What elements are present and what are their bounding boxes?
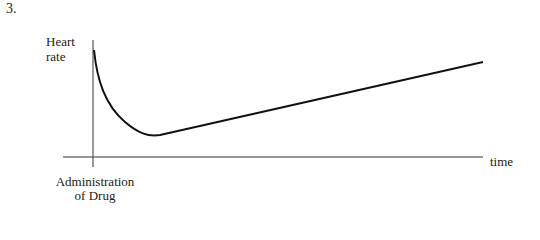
heart-rate-curve — [94, 50, 483, 135]
drug-administration-label: Administration of Drug — [20, 175, 170, 203]
x-axis-label: time — [490, 154, 513, 170]
admin-label-line2: of Drug — [20, 189, 170, 203]
admin-label-line1: Administration — [20, 175, 170, 189]
